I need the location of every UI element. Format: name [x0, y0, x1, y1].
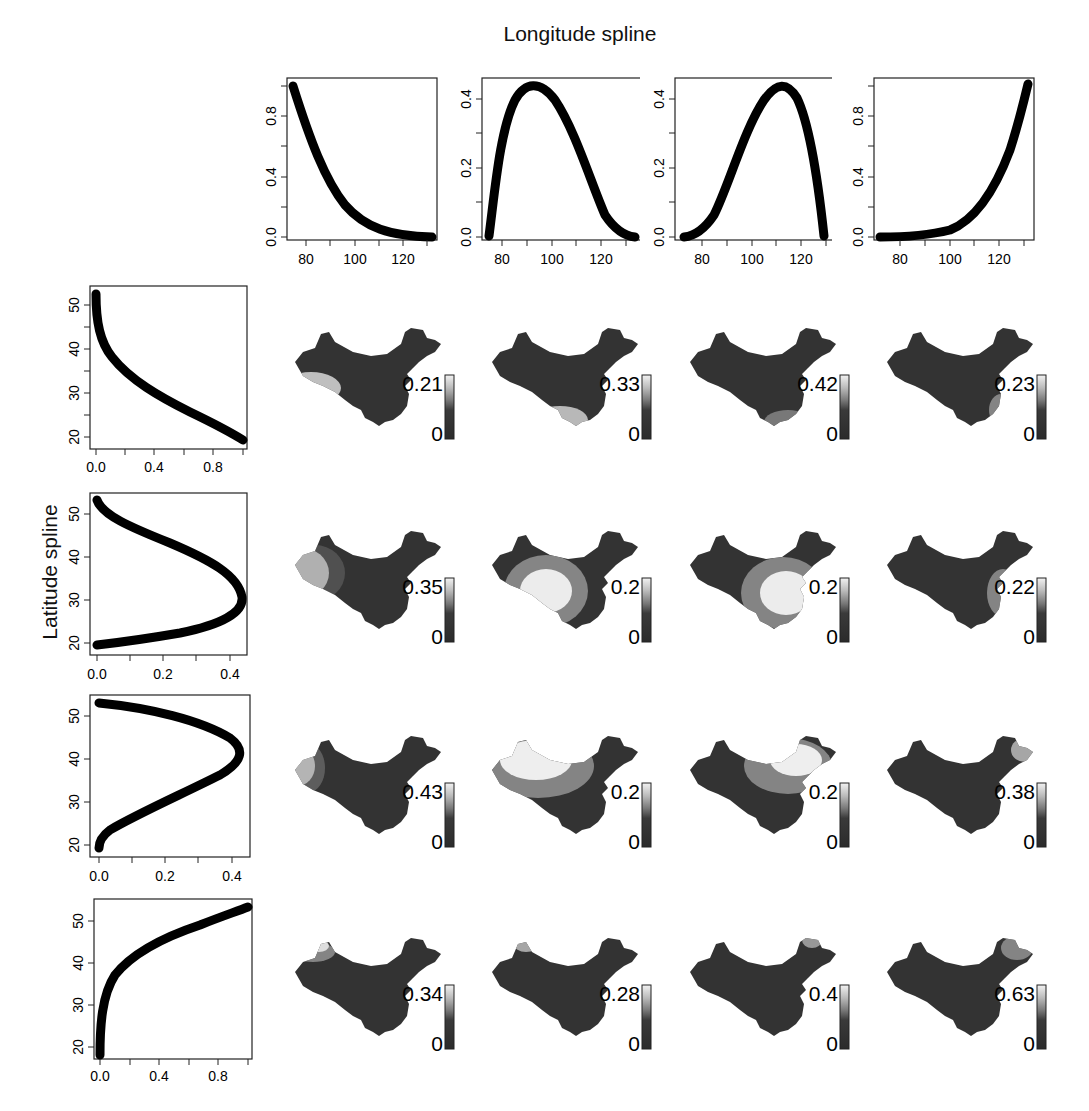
svg-text:0.0: 0.0	[86, 459, 106, 475]
map-r2-c3: 0.2 0	[688, 513, 868, 653]
svg-text:0: 0	[826, 422, 838, 445]
map-r4-c3: 0.4 0	[688, 920, 868, 1060]
svg-text:0.63: 0.63	[994, 982, 1035, 1005]
svg-text:0: 0	[431, 830, 443, 853]
map-r3-c4: 0.38 0	[885, 718, 1065, 858]
svg-text:100: 100	[938, 251, 962, 267]
svg-text:0.4: 0.4	[809, 982, 839, 1005]
svg-text:0: 0	[431, 1032, 443, 1055]
lon-basis-plot-2: 80 100 120 0.0 0.2 0.4	[440, 70, 640, 280]
svg-text:0.2: 0.2	[611, 780, 640, 803]
svg-text:30: 30	[66, 385, 82, 401]
map-r4-c4: 0.63 0	[885, 920, 1065, 1060]
lat-basis-plot-3: 0.0 0.2 0.4 20 30 40 50	[50, 690, 260, 890]
map-r1-c2: 0.33 0	[490, 310, 670, 450]
svg-text:80: 80	[892, 251, 908, 267]
svg-text:0.2: 0.2	[458, 158, 474, 178]
svg-text:0: 0	[1023, 830, 1035, 853]
svg-text:0.35: 0.35	[402, 575, 443, 598]
svg-text:80: 80	[694, 251, 710, 267]
lat-basis-plot-2: 0.0 0.2 0.4 20 30 40 50	[50, 485, 260, 685]
svg-text:40: 40	[66, 549, 82, 565]
svg-text:0.22: 0.22	[994, 575, 1035, 598]
svg-text:120: 120	[987, 251, 1011, 267]
map-r1-c3: 0.42 0	[688, 310, 868, 450]
map-r2-c1: 0.35 0	[293, 513, 473, 653]
lat-basis-plot-4: 0.0 0.4 0.8 20 30 40 50	[50, 895, 260, 1095]
svg-text:0.0: 0.0	[87, 666, 107, 682]
svg-text:0: 0	[628, 422, 640, 445]
svg-text:0.21: 0.21	[402, 372, 443, 395]
map-r3-c3: 0.2 0	[688, 718, 868, 858]
svg-text:0.4: 0.4	[850, 167, 866, 187]
lat-basis-plot-1: 0.0 0.4 0.8 20 30 40 50	[50, 282, 260, 482]
svg-text:40: 40	[66, 751, 82, 767]
svg-text:0.2: 0.2	[809, 575, 838, 598]
svg-text:20: 20	[66, 837, 82, 853]
svg-text:0.33: 0.33	[599, 372, 640, 395]
svg-text:0.0: 0.0	[90, 1068, 110, 1084]
svg-text:30: 30	[66, 794, 82, 810]
svg-text:40: 40	[70, 955, 86, 971]
svg-text:0.0: 0.0	[651, 227, 667, 247]
map-r3-c1: 0.43 0	[293, 718, 473, 858]
map-r3-c2: 0.2 0	[490, 718, 670, 858]
svg-text:0: 0	[628, 625, 640, 648]
svg-text:0.2: 0.2	[155, 868, 175, 884]
svg-text:40: 40	[66, 341, 82, 357]
svg-text:0.8: 0.8	[850, 106, 866, 126]
svg-text:0: 0	[628, 830, 640, 853]
svg-text:100: 100	[343, 251, 367, 267]
svg-text:80: 80	[298, 251, 314, 267]
svg-text:0.23: 0.23	[994, 372, 1035, 395]
svg-text:20: 20	[66, 635, 82, 651]
svg-text:0: 0	[826, 830, 838, 853]
svg-text:0: 0	[1023, 625, 1035, 648]
svg-text:0.0: 0.0	[263, 227, 279, 247]
svg-text:0.38: 0.38	[994, 780, 1035, 803]
map-r4-c1: 0.34 0	[293, 920, 473, 1060]
svg-text:0.8: 0.8	[203, 459, 223, 475]
chart-title: Longitude spline	[0, 22, 1089, 46]
svg-text:0: 0	[431, 422, 443, 445]
svg-text:0.42: 0.42	[797, 372, 838, 395]
svg-text:30: 30	[70, 997, 86, 1013]
svg-text:50: 50	[66, 708, 82, 724]
map-r2-c4: 0.22 0	[885, 513, 1065, 653]
svg-text:0: 0	[826, 1032, 838, 1055]
svg-text:120: 120	[589, 251, 613, 267]
svg-text:0.4: 0.4	[222, 868, 242, 884]
svg-text:0.2: 0.2	[611, 575, 640, 598]
svg-text:50: 50	[66, 297, 82, 313]
svg-text:0.4: 0.4	[144, 459, 164, 475]
svg-text:0.4: 0.4	[651, 89, 667, 109]
svg-text:20: 20	[70, 1039, 86, 1055]
svg-text:100: 100	[540, 251, 564, 267]
svg-text:0.8: 0.8	[263, 106, 279, 126]
svg-text:50: 50	[66, 506, 82, 522]
svg-text:80: 80	[494, 251, 510, 267]
lon-basis-plot-4: 80 100 120 0.0 0.4 0.8	[830, 70, 1040, 280]
map-r1-c4: 0.23 0	[885, 310, 1065, 450]
svg-text:50: 50	[70, 913, 86, 929]
lon-basis-plot-1: 80 100 120 0.0 0.4 0.8	[240, 70, 440, 280]
svg-text:0: 0	[826, 625, 838, 648]
svg-text:0.0: 0.0	[850, 227, 866, 247]
svg-text:0: 0	[1023, 1032, 1035, 1055]
svg-text:0.8: 0.8	[208, 1068, 228, 1084]
svg-text:120: 120	[789, 251, 813, 267]
svg-text:0.0: 0.0	[89, 868, 109, 884]
svg-text:30: 30	[66, 592, 82, 608]
svg-text:100: 100	[740, 251, 764, 267]
lon-basis-plot-3: 80 100 120 0.0 0.2 0.4	[632, 70, 832, 280]
svg-text:0: 0	[1023, 422, 1035, 445]
svg-text:0.4: 0.4	[458, 89, 474, 109]
svg-text:0.4: 0.4	[220, 666, 240, 682]
svg-text:0.28: 0.28	[599, 982, 640, 1005]
svg-text:0.4: 0.4	[263, 167, 279, 187]
svg-text:0.0: 0.0	[458, 227, 474, 247]
map-r2-c2: 0.2 0	[490, 513, 670, 653]
svg-text:0.2: 0.2	[651, 158, 667, 178]
svg-text:0.34: 0.34	[402, 982, 443, 1005]
svg-text:0.43: 0.43	[402, 780, 443, 803]
